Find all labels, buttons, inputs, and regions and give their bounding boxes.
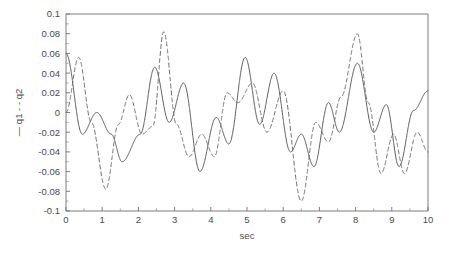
x-tick-label: 5 — [244, 214, 249, 225]
x-tick-label: 4 — [208, 214, 213, 225]
y-axis-label-text: — q1 - - q2 — [13, 89, 24, 137]
x-tick-label: 6 — [281, 214, 286, 225]
line-chart: 012345678910 -0.1-0.08-0.06-0.04-0.0200.… — [0, 0, 450, 257]
x-tick-label: 2 — [136, 214, 141, 225]
x-tick-label: 1 — [100, 214, 105, 225]
y-tick-label: -0.06 — [38, 166, 60, 177]
y-tick-label: -0.08 — [38, 186, 60, 197]
y-tick-label: 0 — [55, 107, 60, 118]
y-tick-label: 0.08 — [42, 28, 61, 39]
chart-figure: 012345678910 -0.1-0.08-0.06-0.04-0.0200.… — [0, 0, 450, 257]
x-tick-label: 9 — [389, 214, 394, 225]
x-tick-label: 8 — [353, 214, 358, 225]
y-tick-label: 0.06 — [42, 48, 61, 59]
y-tick-label: 0.02 — [42, 87, 61, 98]
x-tick-label: 10 — [423, 214, 434, 225]
y-tick-label: -0.1 — [44, 205, 60, 216]
y-tick-label: 0.04 — [42, 68, 61, 79]
x-tick-label: 3 — [172, 214, 177, 225]
x-tick-label: 7 — [317, 214, 322, 225]
y-tick-label: 0.1 — [47, 8, 60, 19]
y-tick-label: -0.04 — [38, 146, 60, 157]
x-tick-label: 0 — [63, 214, 68, 225]
x-axis-label: sec — [240, 230, 255, 241]
y-axis-label: — q1 - - q2 — [13, 89, 24, 137]
y-tick-label: -0.02 — [38, 127, 60, 138]
